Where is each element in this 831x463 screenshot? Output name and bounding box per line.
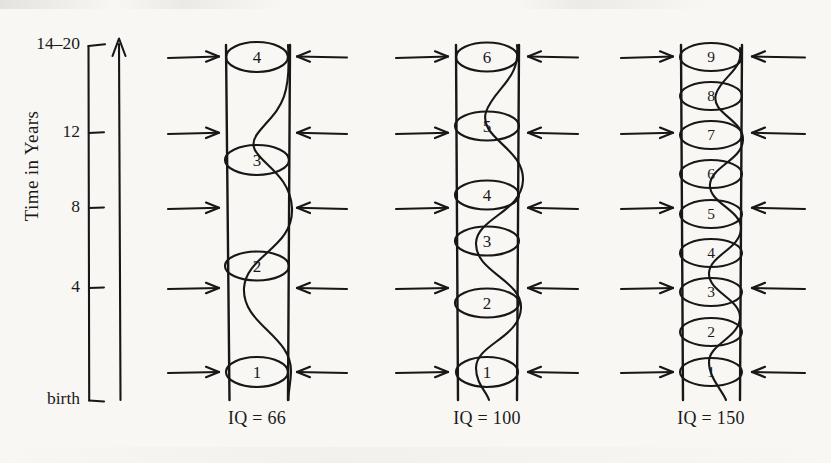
helix-rung-c1-1 — [226, 357, 288, 387]
figure-canvas: Time in Years 14–20 12 8 4 birth — [0, 0, 831, 463]
helix-strand-c3 — [709, 48, 743, 400]
helix-strand-c2 — [476, 45, 523, 400]
helix-rung-c2-6 — [456, 43, 518, 72]
column-caption-iq-100: IQ = 100 — [387, 408, 587, 429]
column-caption-iq-150: IQ = 150 — [611, 408, 811, 429]
helix-rung-c2-4 — [455, 181, 519, 210]
helix-rung-c3-9 — [680, 43, 742, 71]
helix-rung-c2-3 — [455, 227, 519, 256]
helix-rung-c2-2 — [455, 289, 519, 318]
helix-strand-c1 — [244, 45, 292, 400]
helix-rung-c3-8 — [680, 82, 742, 110]
helix-rail-left-c1 — [226, 45, 230, 400]
helix-rail-left-c2 — [456, 45, 458, 400]
helix-rung-c1-2 — [225, 252, 289, 281]
helix-columns — [0, 0, 831, 463]
helix-rung-c3-4 — [680, 239, 742, 267]
column-caption-iq-66: IQ = 66 — [157, 408, 357, 429]
helix-rail-right-c2 — [517, 45, 519, 400]
helix-col-3 — [680, 43, 743, 400]
helix-col-1 — [225, 42, 292, 400]
helix-rung-c3-7 — [680, 121, 742, 149]
helix-rung-c2-1 — [456, 357, 518, 387]
helix-rung-c1-3 — [225, 145, 289, 175]
helix-col-2 — [455, 43, 523, 401]
helix-rung-c1-4 — [226, 42, 288, 72]
